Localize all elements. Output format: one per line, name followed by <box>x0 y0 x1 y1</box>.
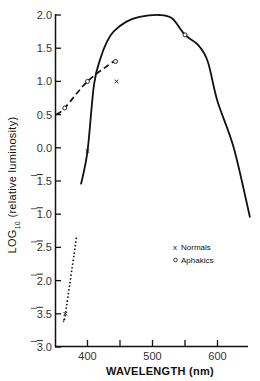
legend-aphakics-label: Aphakics <box>181 256 213 265</box>
y-axis-title-main: LOG <box>6 229 18 253</box>
plot-curves <box>56 15 250 322</box>
aphakics-point <box>63 106 67 110</box>
x-ticks: 400500600 <box>78 340 226 362</box>
y-tick-label: 3.0 <box>37 341 52 353</box>
y-tick-label: 1.5 <box>37 175 52 187</box>
y-tick-label: 1.0 <box>37 75 52 87</box>
legend-normals-label: Normals <box>181 243 211 252</box>
y-axis-title: LOG10 (relative luminosity) <box>6 117 21 254</box>
x-axis-title: WAVELENGTH (nm) <box>106 365 214 377</box>
x-tick-label: 400 <box>78 350 96 362</box>
y-tick-label: 2.0 <box>37 9 52 21</box>
aphakics-point <box>183 33 187 37</box>
aphakics-point <box>114 59 118 63</box>
luminosity-chart: 2.01.51.00.50.01.51.02.52.03.53.0 400500… <box>0 0 260 381</box>
legend: x Normals Aphakics <box>173 243 213 265</box>
y-tick-label: 3.5 <box>37 308 52 320</box>
normals-point <box>115 80 119 84</box>
y-tick-label: 0.5 <box>37 109 52 121</box>
y-ticks: 2.01.51.00.50.01.51.02.52.03.53.0 <box>31 9 61 353</box>
y-tick-label: 2.0 <box>37 275 52 287</box>
y-axis-title-subscript: 10 <box>14 221 21 229</box>
y-tick-label: 1.5 <box>37 42 52 54</box>
axes <box>55 14 248 347</box>
x-tick-label: 500 <box>143 350 161 362</box>
legend-normals-marker: x <box>173 243 177 252</box>
y-tick-label: 0.0 <box>37 142 52 154</box>
legend-aphakics-marker <box>174 258 178 262</box>
y-tick-label: 2.5 <box>37 241 52 253</box>
plot-markers <box>63 33 187 316</box>
y-tick-label: 1.0 <box>37 208 52 220</box>
curve-solid <box>81 15 250 218</box>
y-axis-title-rest: (relative luminosity) <box>6 117 18 221</box>
curve-dotted <box>63 237 76 321</box>
aphakics-point <box>86 79 90 83</box>
x-tick-label: 600 <box>208 350 226 362</box>
